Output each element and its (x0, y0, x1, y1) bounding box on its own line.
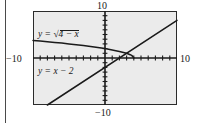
annotation-line-equation: y = x − 2 (38, 67, 74, 77)
annotation-sqrt-lhs: y = (38, 29, 51, 39)
axis-label-top: 10 (97, 1, 107, 11)
plot-canvas (33, 11, 177, 105)
annotation-sqrt-equation: y = √4 − x (38, 29, 79, 40)
radicand: 4 − x (59, 29, 79, 39)
axis-label-left: −10 (6, 54, 22, 64)
radical-group: √4 − x (53, 29, 78, 40)
axis-label-right: 10 (180, 54, 190, 64)
graph-figure: y = √4 − x y = x − 2 10 −10 −10 10 (0, 0, 199, 123)
axis-label-bottom: −10 (95, 108, 111, 118)
radical-vinculum (60, 30, 79, 31)
curve-sqrt (33, 40, 134, 58)
